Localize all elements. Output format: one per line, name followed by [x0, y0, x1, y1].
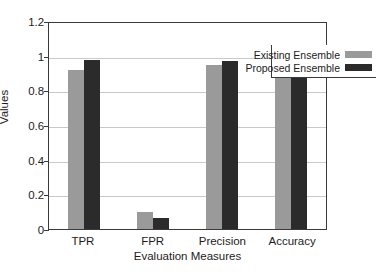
legend-item: Existing Ensemble — [276, 48, 372, 61]
legend-label: Proposed Ensemble — [245, 62, 340, 74]
bar — [222, 61, 238, 229]
bar-group — [49, 23, 118, 229]
bar — [206, 65, 222, 229]
x-axis-tick-label: FPR — [118, 230, 188, 252]
x-axis-tick-label: TPR — [48, 230, 118, 252]
x-axis-tick-label: Accuracy — [257, 230, 327, 252]
bar-group — [188, 23, 257, 229]
y-axis-tick-label: 0.6 — [2, 120, 44, 132]
x-axis-tick-label: Precision — [188, 230, 258, 252]
bar — [153, 218, 169, 229]
x-axis-label: Evaluation Measures — [48, 250, 327, 262]
legend-swatch-proposed-ensemble — [345, 64, 372, 71]
y-axis-tick-label: 0 — [2, 224, 44, 236]
bar-group — [118, 23, 187, 229]
y-axis-tick-label: 1.2 — [2, 16, 44, 28]
chart-legend: Existing Ensemble Proposed Ensemble — [271, 45, 376, 78]
y-axis-tick-labels: 00.20.40.60.811.2 — [0, 22, 44, 230]
bar — [137, 212, 153, 229]
x-axis-tick-labels: TPRFPRPrecisionAccuracy — [48, 230, 327, 252]
bar — [68, 70, 84, 229]
y-axis-tick-label: 0.2 — [2, 189, 44, 201]
legend-swatch-existing-ensemble — [345, 51, 372, 58]
bar — [275, 59, 291, 229]
bar — [84, 60, 100, 229]
bar — [291, 57, 307, 229]
y-axis-tick-label: 0.4 — [2, 155, 44, 167]
legend-label: Existing Ensemble — [254, 49, 340, 61]
y-axis-tick-label: 0.8 — [2, 85, 44, 97]
plot-area: Existing Ensemble Proposed Ensemble — [48, 22, 327, 230]
y-axis-tick-label: 1 — [2, 51, 44, 63]
legend-item: Proposed Ensemble — [276, 61, 372, 74]
